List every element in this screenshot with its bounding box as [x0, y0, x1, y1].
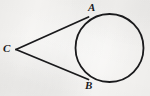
tangent-segment-ca [16, 17, 89, 50]
tangent-segment-cb [16, 50, 89, 80]
geometry-figure: A B C [0, 0, 150, 96]
geometry-canvas [0, 0, 150, 96]
point-label-b: B [85, 80, 92, 91]
point-label-c: C [3, 43, 10, 54]
circle-shape [76, 14, 144, 82]
point-label-a: A [88, 2, 95, 13]
